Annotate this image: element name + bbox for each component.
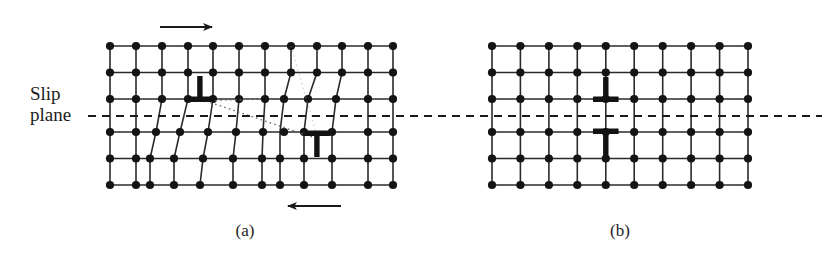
dislocation-trace-dotted xyxy=(206,46,318,139)
dislocation-symbol-upright-tee-a xyxy=(304,131,330,158)
dislocation-symbol-inverted-tee-b xyxy=(593,77,619,102)
slip-plane-label-line1: Slip xyxy=(30,83,61,104)
dislocation-symbol-upright-tee-b xyxy=(593,129,619,156)
slip-plane-label: Slip plane xyxy=(30,83,108,125)
slip-plane-label-line2: plane xyxy=(30,104,108,125)
dislocation-annihilation-figure: Slip plane (a) (b) xyxy=(0,0,835,255)
panel-a-horizontal-bonds xyxy=(110,46,393,185)
caption-panel-a: (a) xyxy=(215,221,275,241)
caption-panel-b: (b) xyxy=(590,221,650,241)
figure-canvas xyxy=(0,0,835,255)
dislocation-symbol-inverted-tee-a xyxy=(187,76,213,102)
panel-a-vertical-bonds xyxy=(110,46,393,185)
